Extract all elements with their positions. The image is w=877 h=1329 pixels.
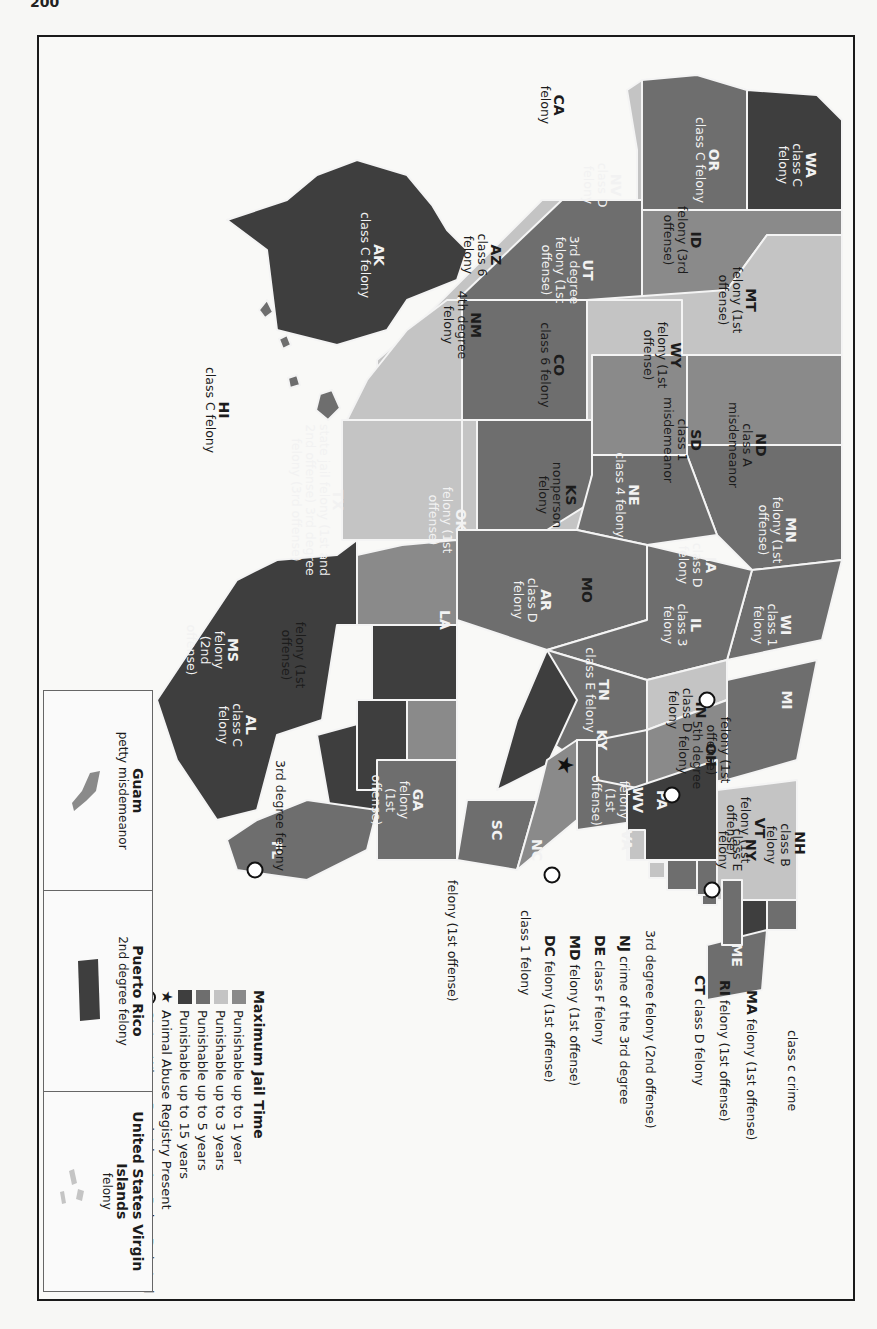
label-CA: CAfelony [538, 86, 566, 125]
label-NC: NC [530, 839, 544, 861]
label-IA: IAclass D felony [676, 535, 718, 595]
state-MA [722, 880, 742, 945]
callout-VT: VTfelony (1st offense) [724, 790, 767, 870]
label-LA: LA [438, 610, 452, 630]
label-AK: AKclass C felony [358, 212, 386, 298]
legend-item-registry-present: ★Animal Abuse Registry Present [158, 990, 176, 1293]
swatch-5yr [196, 990, 210, 1004]
label-WY: WYfelony (1st offense) [641, 315, 683, 395]
label-MS: MSfelony (2nd offense) [184, 620, 240, 680]
label-SC: SC [490, 820, 504, 840]
label-SD: SDclass 1 misdemeanor [661, 395, 703, 485]
label-MO: MO [580, 577, 594, 603]
label-NE: NEclass 4 felony [613, 452, 641, 537]
legend: Maximum Jail Time Punishable up to 1 yea… [140, 990, 267, 1293]
callout-CT: CTclass D felony [692, 975, 707, 1086]
territories-panel: Guam petty misdemeanor Puerto Rico 2nd d… [43, 690, 153, 1292]
label-OR: ORclass C felony [693, 117, 721, 203]
label-ND: NDclass A misdemeanor [726, 400, 768, 490]
registry-debated-ring-icon-OH [664, 787, 681, 804]
label-UT: UT3rd degree felony (1st offense) [539, 230, 595, 310]
swatch-1yr [232, 990, 246, 1004]
puerto-rico-shape [70, 951, 110, 1031]
callout-PA: 3rd degree felony (2nd offense) [643, 930, 657, 1129]
callout-DE: DEclass F felony [592, 935, 607, 1045]
label-TX: TXstate jail felony (1st and 2nd offense… [289, 420, 345, 580]
label-OK: OKfelony (1st offense) [426, 485, 468, 555]
state-DE [649, 862, 665, 878]
label-KY: KY [595, 730, 609, 751]
callout-FL: 3rd degree felony [273, 760, 287, 871]
label-KS: KSnonperson felony [536, 455, 578, 535]
label-MT: MTfelony (1st offense) [716, 260, 758, 340]
callout-MD: MDfelony (1st offense) [567, 935, 582, 1086]
label-AL: ALclass C felony [216, 695, 258, 755]
legend-item-1yr: Punishable up to 1 year [230, 990, 248, 1293]
state-VT [767, 900, 797, 930]
swatch-15yr [178, 990, 192, 1004]
registry-present-star-icon-TN: ★ [554, 755, 576, 775]
territory-puerto-rico: Puerto Rico 2nd degree felony [44, 891, 152, 1091]
label-NV: NVclass D felony [581, 155, 623, 215]
territory-usvi: United States Virgin Islands felony [44, 1092, 152, 1291]
callout-ME: class c crime [785, 1030, 799, 1111]
label-HI: HIclass C felony [203, 367, 231, 453]
callout-NC: class 1 felony [518, 910, 532, 995]
label-TN: TNclass E felony [583, 647, 611, 732]
swatch-3yr [214, 990, 228, 1004]
label-MI: MI [780, 690, 794, 709]
registry-debated-ring-icon-IN [699, 692, 716, 709]
label-AZ: AZclass 6 felony [461, 225, 503, 285]
callout-NJ: NJcrime of the 3rd degree [617, 935, 632, 1104]
callout-SC: felony (1st offense) [445, 880, 459, 1002]
legend-title: Maximum Jail Time [251, 990, 267, 1293]
state-NJ [667, 860, 697, 890]
label-ID: IDfelony (3rd offense) [661, 200, 703, 280]
legend-item-3yr: Punishable up to 3 years [212, 990, 230, 1293]
label-OH: OH5th degree felony [676, 720, 718, 790]
label-VA: VA [620, 830, 634, 851]
label-WV: WVfelony (1st offense) [589, 775, 645, 825]
label-NM: NM4th degree felony [441, 285, 483, 365]
callout-NH: NHclass B felony [764, 815, 807, 875]
usvi-shape [54, 1161, 94, 1221]
label-CO: COclass 6 felony [538, 322, 566, 407]
legend-item-5yr: Punishable up to 5 years [194, 990, 212, 1293]
label-WA: WAclass C felony [776, 135, 818, 195]
guam-shape [70, 761, 110, 821]
legend-item-15yr: Punishable up to 15 years [176, 990, 194, 1293]
label-MN: MNfelony (1st offense) [756, 495, 798, 565]
callout-LA: felony (1st offense) [279, 610, 307, 700]
callout-DC: DCfelony (1st offense) [542, 935, 557, 1083]
label-WI: WIclass 1 felony [751, 595, 793, 655]
star-icon: ★ [160, 990, 174, 1004]
label-ME: ME [730, 943, 744, 967]
map-canvas: AKclass C felony HIclass C felony WAclas… [0, 0, 877, 1329]
registry-debated-ring-icon-NY [704, 882, 721, 899]
label-IL: ILclass 3 felony [661, 595, 703, 655]
callout-RI: RIfelony (1st offense) [717, 980, 732, 1122]
label-GA: GAfelony (1st offense) [369, 770, 425, 830]
registry-debated-ring-icon-FL [247, 862, 264, 879]
label-AR: ARclass D felony [511, 570, 553, 630]
registry-debated-ring-icon-NC [544, 867, 561, 884]
territory-guam: Guam petty misdemeanor [44, 691, 152, 891]
callout-MA: MAfelony (1st offense) [744, 990, 759, 1140]
state-AR [372, 625, 457, 710]
